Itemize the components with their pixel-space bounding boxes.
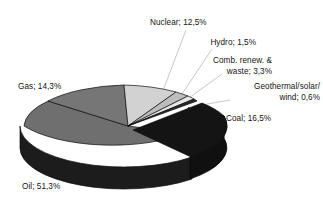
pie-label-comb-renew-waste: Comb. renew. & waste; 3,3% (186, 56, 272, 77)
pie-chart: Nuclear; 12,5% Hydro; 1,5% Comb. renew. … (0, 0, 323, 207)
pie-label-gas: Gas; 14,3% (18, 82, 98, 93)
pie-label-nuclear: Nuclear; 12,5% (150, 18, 236, 29)
pie-label-coal: Coal; 16,5% (226, 114, 316, 125)
pie-label-oil: Oil; 51,3% (22, 182, 112, 193)
pie-label-geothermal-solar-wind: Geothermal/solar/ wind; 0,6% (204, 82, 320, 103)
pie-label-hydro: Hydro; 1,5% (176, 38, 256, 49)
pie-chart-graphic (0, 0, 323, 207)
pie-top-slices (24, 85, 227, 157)
